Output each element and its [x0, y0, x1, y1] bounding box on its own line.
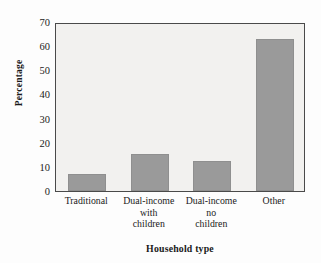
- bar: [193, 161, 231, 191]
- y-tick-label: 30: [26, 115, 50, 125]
- y-tick-label: 50: [26, 66, 50, 76]
- bars-container: [56, 24, 304, 191]
- x-axis-tick-labels: TraditionalDual-incomewithchildrenDual-i…: [55, 195, 305, 241]
- y-axis-title: Percentage: [14, 43, 24, 123]
- x-tick-label-line: Other: [235, 195, 314, 207]
- bar: [256, 39, 294, 191]
- bar: [131, 154, 169, 191]
- plot-area: [55, 23, 305, 192]
- x-tick-label-line: no: [172, 207, 251, 219]
- y-tick-label: 20: [26, 139, 50, 149]
- y-tick-label: 70: [26, 18, 50, 28]
- x-tick-label-line: children: [172, 218, 251, 230]
- bar: [68, 174, 106, 191]
- x-axis-title: Household type: [55, 243, 305, 254]
- y-tick-label: 40: [26, 90, 50, 100]
- y-axis-tick-labels: 010203040506070: [24, 0, 50, 263]
- y-tick-label: 10: [26, 163, 50, 173]
- y-tick-label: 60: [26, 42, 50, 52]
- bar-chart-figure: Percentage 010203040506070 TraditionalDu…: [0, 0, 321, 263]
- x-tick-label: Other: [235, 195, 314, 207]
